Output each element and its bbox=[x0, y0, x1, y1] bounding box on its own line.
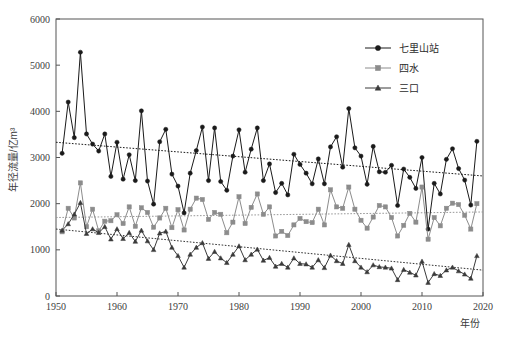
legend-item[interactable]: 七里山站 bbox=[365, 42, 439, 54]
data-point bbox=[298, 162, 302, 166]
data-point bbox=[438, 192, 442, 196]
data-point bbox=[316, 157, 320, 161]
data-point bbox=[346, 242, 351, 246]
legend-marker bbox=[375, 65, 380, 70]
data-point bbox=[414, 220, 418, 224]
x-tick-label: 1980 bbox=[229, 301, 249, 312]
legend-item[interactable]: 三口 bbox=[365, 83, 419, 94]
data-point bbox=[456, 269, 461, 273]
data-point bbox=[371, 215, 375, 219]
data-point bbox=[139, 206, 143, 210]
data-point bbox=[279, 261, 284, 265]
data-point bbox=[152, 225, 156, 229]
data-point bbox=[219, 179, 223, 183]
data-point bbox=[353, 207, 357, 211]
data-point bbox=[213, 126, 217, 130]
trend-line bbox=[56, 212, 483, 218]
data-point bbox=[213, 210, 217, 214]
data-point bbox=[432, 181, 436, 185]
data-point bbox=[389, 215, 393, 219]
data-point bbox=[249, 205, 253, 209]
data-point bbox=[371, 263, 376, 267]
data-point bbox=[267, 162, 271, 166]
data-point bbox=[310, 220, 314, 224]
data-point bbox=[121, 177, 125, 181]
data-point bbox=[389, 163, 393, 167]
legend-label: 七里山站 bbox=[399, 42, 439, 54]
series-circle bbox=[60, 50, 479, 231]
data-point bbox=[457, 202, 461, 206]
x-tick-label: 1990 bbox=[290, 301, 310, 312]
data-point bbox=[292, 223, 296, 227]
data-point bbox=[280, 229, 284, 233]
data-point bbox=[274, 190, 278, 194]
x-tick-label: 1970 bbox=[168, 301, 188, 312]
data-point bbox=[121, 221, 125, 225]
data-point bbox=[316, 258, 321, 262]
data-point bbox=[335, 135, 339, 139]
legend-item[interactable]: 四水 bbox=[365, 63, 419, 74]
data-point bbox=[91, 207, 95, 211]
series-path bbox=[62, 52, 477, 229]
data-point bbox=[328, 145, 332, 149]
data-point bbox=[420, 155, 424, 159]
data-point bbox=[444, 157, 448, 161]
x-tick-label: 2000 bbox=[351, 301, 371, 312]
data-point bbox=[72, 136, 76, 140]
data-point bbox=[103, 219, 107, 223]
data-point bbox=[72, 212, 77, 216]
series-path bbox=[62, 183, 477, 239]
data-point bbox=[127, 153, 131, 157]
data-point bbox=[475, 139, 479, 143]
data-point bbox=[237, 244, 242, 248]
trend-line bbox=[56, 229, 483, 270]
data-point bbox=[432, 271, 437, 275]
data-point bbox=[182, 265, 187, 269]
legend-marker bbox=[375, 45, 380, 50]
y-tick-label: 3000 bbox=[30, 152, 50, 163]
chart-svg: 0100020003000400050006000195019601970198… bbox=[0, 0, 510, 341]
data-point bbox=[231, 220, 235, 224]
series-triangle bbox=[60, 200, 479, 284]
data-point bbox=[84, 132, 88, 136]
data-point bbox=[383, 205, 387, 209]
data-point bbox=[426, 237, 430, 241]
data-point bbox=[267, 255, 272, 259]
legend-label: 三口 bbox=[399, 83, 419, 94]
data-point bbox=[102, 224, 107, 228]
data-point bbox=[164, 206, 168, 210]
data-point bbox=[127, 230, 132, 234]
data-point bbox=[255, 192, 259, 196]
data-point bbox=[267, 205, 271, 209]
data-point bbox=[420, 259, 425, 263]
data-point bbox=[66, 100, 70, 104]
legend-label: 四水 bbox=[399, 63, 419, 74]
y-tick-label: 0 bbox=[45, 291, 50, 302]
legend: 七里山站四水三口 bbox=[365, 42, 439, 94]
data-point bbox=[377, 170, 381, 174]
data-point bbox=[60, 151, 64, 155]
data-point bbox=[414, 186, 418, 190]
data-point bbox=[310, 182, 314, 186]
data-point bbox=[463, 178, 467, 182]
data-point bbox=[292, 256, 297, 260]
data-point bbox=[145, 239, 150, 243]
data-point bbox=[188, 207, 192, 211]
data-point bbox=[401, 267, 406, 271]
data-point bbox=[109, 174, 113, 178]
data-point bbox=[194, 196, 198, 200]
data-point bbox=[145, 210, 149, 214]
data-point bbox=[347, 185, 351, 189]
plot-frame bbox=[56, 19, 483, 296]
data-point bbox=[133, 224, 137, 228]
data-point bbox=[200, 197, 204, 201]
data-point bbox=[335, 205, 339, 209]
data-point bbox=[469, 203, 473, 207]
data-point bbox=[194, 148, 198, 152]
data-point bbox=[280, 181, 284, 185]
data-point bbox=[450, 265, 455, 269]
data-point bbox=[243, 221, 247, 225]
data-point bbox=[139, 109, 143, 113]
data-point bbox=[359, 218, 363, 222]
data-point bbox=[91, 142, 95, 146]
